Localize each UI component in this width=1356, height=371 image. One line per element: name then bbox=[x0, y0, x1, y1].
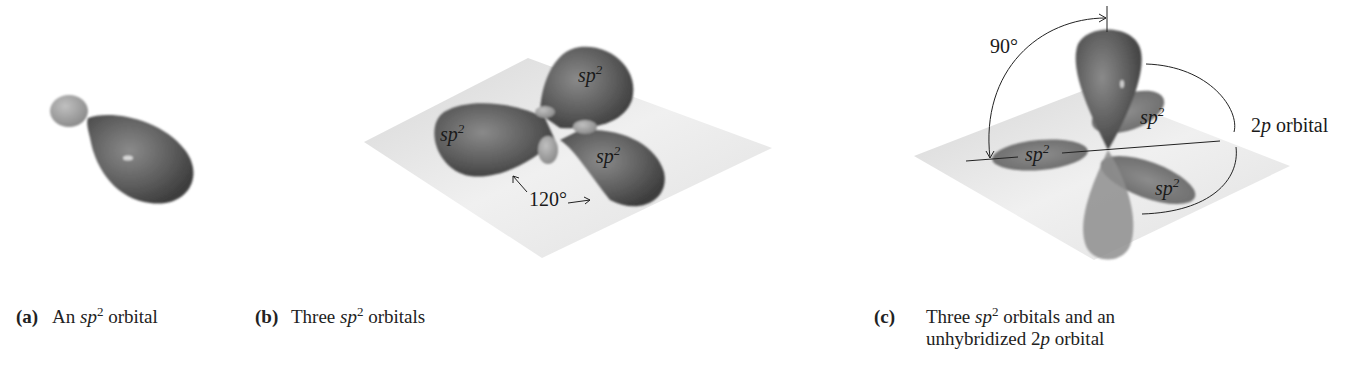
panel-c-sp2-and-2p: 90° 2p orbital sp2 sp2 sp2 bbox=[914, 6, 1329, 260]
caption-line-2: unhybridized 2p orbital bbox=[874, 328, 1115, 350]
orbital-figure: sp2 sp2 sp2 120° 90° 2p bbox=[0, 0, 1356, 371]
caption-a: (a)An sp2 orbital bbox=[16, 306, 158, 328]
caption-b: (b)Three sp2 orbitals bbox=[255, 306, 425, 328]
caption-tag: (a) bbox=[16, 306, 52, 328]
label-2p-orbital: 2p orbital bbox=[1251, 114, 1329, 137]
large-lobe bbox=[87, 115, 193, 203]
lobe-top bbox=[540, 47, 633, 129]
caption-c: (c)Three sp2 orbitals and an unhybridize… bbox=[874, 306, 1115, 350]
label-90-degrees: 90° bbox=[990, 35, 1018, 57]
label-120-degrees: 120° bbox=[529, 188, 567, 210]
panel-a-sp2-orbital bbox=[50, 95, 193, 204]
small-lobe bbox=[50, 95, 88, 127]
caption-tag: (b) bbox=[255, 306, 291, 328]
panel-b-three-sp2: sp2 sp2 sp2 120° bbox=[364, 47, 772, 258]
caption-tag: (c) bbox=[874, 306, 926, 328]
